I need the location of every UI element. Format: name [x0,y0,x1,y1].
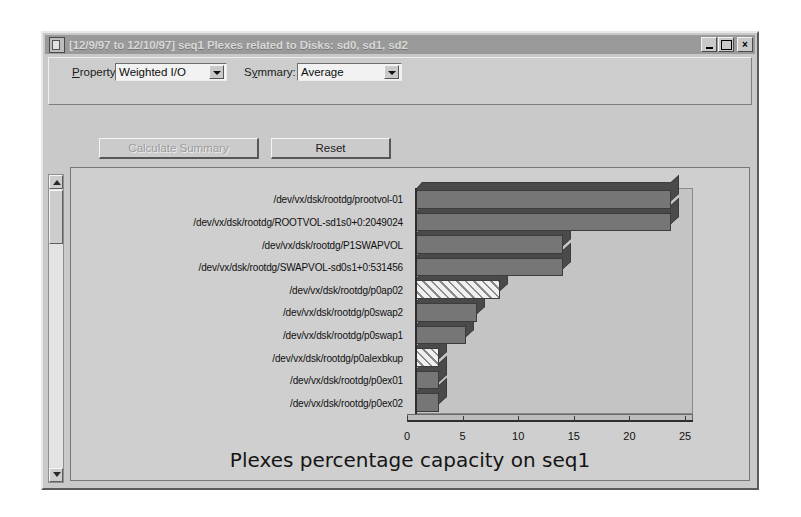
category-label: /dev/vx/dsk/rootdg/p0swap1 [283,329,403,340]
x-axis-tick-label: 25 [679,430,691,442]
bar [415,371,439,390]
minimize-icon [702,38,716,51]
maximize-button[interactable] [718,37,734,52]
category-label: /dev/vx/dsk/rootdg/p0ex01 [290,375,403,386]
bar [415,326,466,345]
summary-dropdown[interactable]: Average [297,63,402,81]
bar-front-face [415,235,563,254]
summary-label: Symmary: [244,66,296,78]
window-title-bar[interactable]: [12/9/97 to 12/10/97] seq1 Plexes relate… [45,35,755,54]
summary-dropdown-value: Average [298,66,384,78]
bar-top-face [415,182,678,190]
minimize-button[interactable] [701,37,717,52]
bar [415,348,439,367]
bar-chart: /dev/vx/dsk/rootdg/prootvol-01/dev/vx/ds… [71,168,749,480]
bar [415,303,477,322]
controls-strip: Property: Weighted I/O Symmary: Average [48,57,752,105]
window-controls: × [701,37,753,52]
x-axis-tick [518,416,519,422]
category-label: /dev/vx/dsk/rootdg/p0ap02 [289,284,403,295]
bar-front-face [415,213,671,232]
chevron-down-icon[interactable] [209,65,224,79]
x-axis-tick [407,416,408,422]
x-axis-tick [685,416,686,422]
bar-front-face [415,280,500,299]
chart-scroll-area: /dev/vx/dsk/rootdg/prootvol-01/dev/vx/ds… [48,137,752,483]
bar [415,235,563,254]
x-axis-tick [463,416,464,422]
chevron-down-icon[interactable] [384,65,399,79]
category-label: /dev/vx/dsk/rootdg/p0ex02 [290,397,403,408]
chart-panel: /dev/vx/dsk/rootdg/prootvol-01/dev/vx/ds… [70,167,750,481]
document-icon [49,37,65,53]
bar-front-face [415,258,563,277]
plot-area: 0510152025 [407,188,699,428]
bar-front-face [415,190,671,209]
category-label: /dev/vx/dsk/rootdg/SWAPVOL-sd0s1+0:53145… [199,262,403,273]
chart-window: [12/9/97 to 12/10/97] seq1 Plexes relate… [41,31,759,490]
summary-label-pre: S [244,66,252,78]
category-label: /dev/vx/dsk/rootdg/P1SWAPVOL [262,239,403,250]
bar-front-face [415,393,439,412]
bar [415,190,671,209]
category-label: /dev/vx/dsk/rootdg/p0alexbkup [272,352,403,363]
property-label: Property: [72,66,119,78]
bar-front-face [415,303,477,322]
value-axis-line [407,420,693,422]
bar [415,393,439,412]
close-icon: × [738,38,752,51]
scroll-up-arrow-icon[interactable] [49,175,63,189]
scrollbar-thumb[interactable] [49,190,63,244]
x-axis-tick-label: 20 [623,430,635,442]
scroll-down-arrow-icon[interactable] [49,468,63,482]
property-label-mnemonic: P [72,66,80,78]
property-label-rest: roperty: [80,66,119,78]
bar [415,258,563,277]
bar [415,213,671,232]
x-axis-tick [574,416,575,422]
summary-label-rest: mmary: [257,66,295,78]
category-axis-labels: /dev/vx/dsk/rootdg/prootvol-01/dev/vx/ds… [71,168,403,480]
value-axis-origin-line [415,188,417,414]
chart-title: Plexes percentage capacity on seq1 [71,448,749,472]
bar-front-face [415,326,466,345]
category-label: /dev/vx/dsk/rootdg/prootvol-01 [274,194,403,205]
bar-front-face [415,371,439,390]
category-label: /dev/vx/dsk/rootdg/ROOTVOL-sd1s0+0:20490… [193,216,403,227]
x-axis-tick-label: 10 [512,430,524,442]
bar-front-face [415,348,439,367]
x-axis-tick-label: 5 [460,430,466,442]
x-axis-tick-label: 0 [404,430,410,442]
x-axis-tick [629,416,630,422]
property-dropdown[interactable]: Weighted I/O [115,63,227,81]
close-button[interactable]: × [737,37,753,52]
window-title: [12/9/97 to 12/10/97] seq1 Plexes relate… [69,39,701,51]
vertical-scrollbar[interactable] [48,174,64,483]
bar [415,280,500,299]
category-label: /dev/vx/dsk/rootdg/p0swap2 [283,307,403,318]
maximize-icon [719,38,733,51]
x-axis-tick-label: 15 [568,430,580,442]
property-dropdown-value: Weighted I/O [116,66,209,78]
